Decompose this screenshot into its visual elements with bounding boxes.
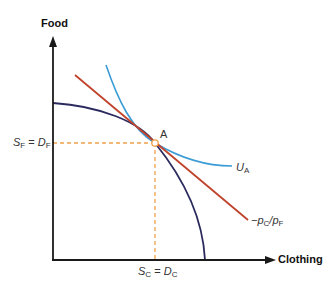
price-food-subscript: F bbox=[279, 219, 284, 228]
clothing-equilibrium-label: SC = DC bbox=[138, 265, 177, 279]
price-clothing-symbol: −p bbox=[251, 214, 264, 226]
price-line bbox=[75, 75, 248, 220]
production-possibility-frontier bbox=[53, 103, 205, 260]
indifference-curve-label: UA bbox=[236, 161, 249, 175]
point-a-label: A bbox=[160, 128, 167, 140]
utility-symbol: U bbox=[236, 161, 244, 173]
food-demand-symbol: D bbox=[38, 136, 46, 148]
food-demand-subscript: F bbox=[46, 141, 51, 150]
equilibrium-point-marker bbox=[152, 140, 158, 146]
clothing-demand-subscript: C bbox=[172, 270, 178, 279]
price-food-symbol: /p bbox=[269, 214, 278, 226]
x-axis-label: Clothing bbox=[278, 253, 323, 265]
y-axis-label: Food bbox=[41, 17, 68, 29]
clothing-demand-symbol: D bbox=[164, 265, 172, 277]
price-ratio-label: −pC/pF bbox=[251, 214, 283, 228]
food-equilibrium-label: SF = DF bbox=[13, 136, 51, 150]
equals-sign: = bbox=[151, 265, 164, 277]
equals-sign: = bbox=[25, 136, 38, 148]
indifference-curve bbox=[106, 65, 232, 166]
x-axis-arrow-icon bbox=[265, 256, 276, 264]
y-axis-arrow-icon bbox=[49, 36, 57, 47]
utility-subscript: A bbox=[244, 166, 249, 175]
